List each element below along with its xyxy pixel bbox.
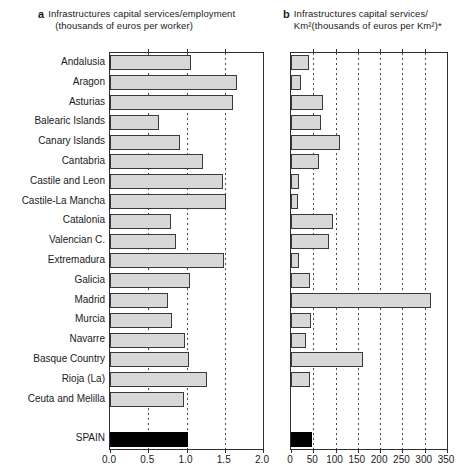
gridline-200 [380,53,381,449]
tick-top-0.5 [148,49,149,52]
bar-a-castile-and-leon [110,174,223,189]
tick-top-100 [336,49,337,52]
tick-bottom-250 [402,449,403,453]
category-label-castile-la-mancha: Castile-La Mancha [0,191,105,211]
tick-top-300 [425,49,426,52]
panel-b-title: bInfrastructures capital services/Km²(th… [283,8,458,32]
axis-tick-label-1.0: 1.0 [179,454,193,465]
bar-a-cantabria [110,154,203,169]
category-label-asturias: Asturias [0,92,105,112]
bar-b-catalonia [291,214,333,229]
bar-a-castile-la-mancha [110,194,226,209]
axis-tick-label-100: 100 [326,454,343,465]
tick-top-200 [380,49,381,52]
tick-bottom-2 [263,449,264,453]
category-label-cantabria: Cantabria [0,151,105,171]
category-label-madrid: Madrid [0,290,105,310]
bar-a-basque-country [110,352,189,367]
axis-tick-label-200: 200 [371,454,388,465]
gridline-50 [313,53,314,449]
bar-a-canary-islands [110,135,180,150]
bar-b-castile-and-leon [291,174,299,189]
tick-bottom-0.5 [148,449,149,453]
bar-b-canary-islands [291,135,340,150]
bar-b-andalusia [291,55,309,70]
category-label-basque-country: Basque Country [0,349,105,369]
tick-top-150 [358,49,359,52]
panel-a-title-line1: Infrastructures capital services/employm… [48,8,235,19]
bar-b-balearic-islands [291,115,321,130]
tick-bottom-350 [447,449,448,453]
axis-tick-label-1.5: 1.5 [217,454,231,465]
axis-tick-label-0.5: 0.5 [140,454,154,465]
bar-a-rioja-la [110,372,207,387]
bar-a-asturias [110,95,233,110]
tick-bottom-0 [291,449,292,453]
tick-bottom-50 [313,449,314,453]
axis-tick-label-50: 50 [307,454,318,465]
tick-bottom-150 [358,449,359,453]
category-label-navarre: Navarre [0,329,105,349]
bar-a-aragon [110,75,237,90]
tick-bottom-1 [187,449,188,453]
bar-a-andalusia [110,55,191,70]
axis-tick-label-2.0: 2.0 [255,454,269,465]
panel-b-plot [290,52,448,450]
axis-tick-label-300: 300 [415,454,432,465]
bar-b-rioja-la [291,372,310,387]
panel-b-title-line2: Km²(thousands of euros per Km²)* [294,20,442,31]
category-label-galicia: Galicia [0,270,105,290]
bar-a-balearic-islands [110,115,159,130]
bar-a-madrid [110,293,168,308]
gridline-300 [425,53,426,449]
tick-bottom-1.5 [225,449,226,453]
category-label-spain: SPAIN [0,428,105,448]
bar-b-valencian-c [291,234,329,249]
bar-b-castile-la-mancha [291,194,298,209]
category-label-ceuta-and-melilla: Ceuta and Melilla [0,389,105,409]
category-label-aragon: Aragon [0,72,105,92]
category-label-castile-and-leon: Castile and Leon [0,171,105,191]
axis-tick-label-250: 250 [393,454,410,465]
gridline-250 [402,53,403,449]
bar-a-murcia [110,313,172,328]
tick-bottom-100 [336,449,337,453]
bar-a-extremadura [110,253,224,268]
category-label-balearic-islands: Balearic Islands [0,111,105,131]
bar-a-valencian-c [110,234,176,249]
gridline-150 [358,53,359,449]
bar-a-galicia [110,273,190,288]
bar-b-galicia [291,273,310,288]
gridline-100 [336,53,337,449]
gridline-1 [187,53,188,449]
gridline-0.5 [148,53,149,449]
tick-bottom-0 [110,449,111,453]
category-label-andalusia: Andalusia [0,52,105,72]
bar-b-navarre [291,333,306,348]
bar-b-madrid [291,293,431,308]
bar-b-cantabria [291,154,319,169]
bar-a-navarre [110,333,185,348]
tick-bottom-300 [425,449,426,453]
tick-top-50 [313,49,314,52]
tick-top-1.5 [225,49,226,52]
axis-tick-label-0: 0 [287,454,293,465]
category-label-canary-islands: Canary Islands [0,131,105,151]
category-label-extremadura: Extremadura [0,250,105,270]
panel-a-plot [109,52,264,450]
panel-a-title-line2: (thousands of euros per worker) [48,20,193,31]
bar-b-asturias [291,95,323,110]
panel-b-marker: b [283,8,290,20]
tick-top-250 [402,49,403,52]
bar-a-spain [110,432,188,447]
bar-b-aragon [291,75,301,90]
category-label-murcia: Murcia [0,309,105,329]
tick-top-1 [187,49,188,52]
bar-b-extremadura [291,253,299,268]
gridline-1.5 [225,53,226,449]
axis-tick-label-350: 350 [438,454,455,465]
panel-b-title-line1: Infrastructures capital services/ [294,8,428,19]
bar-b-spain [291,432,312,447]
category-label-rioja-la: Rioja (La) [0,369,105,389]
panel-a-title: aInfrastructures capital services/employ… [38,8,268,32]
